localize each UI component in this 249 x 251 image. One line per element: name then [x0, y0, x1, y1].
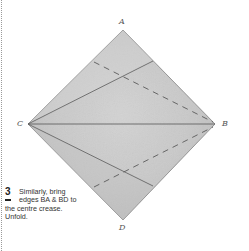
step-number-underline — [5, 199, 11, 201]
vertex-label-a: A — [119, 18, 125, 26]
vertex-label-d: D — [119, 224, 125, 232]
vertex-label-b: B — [222, 120, 228, 128]
step-caption: 3 Similarly, bring edges BA & BD to the … — [5, 188, 95, 221]
step-number: 3 — [5, 187, 11, 197]
vertex-label-c: C — [17, 120, 23, 128]
caption-line-4: Unfold. — [5, 213, 95, 221]
